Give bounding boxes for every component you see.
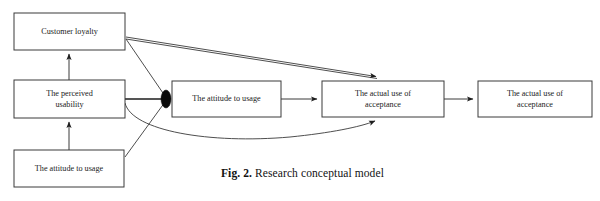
node-label-attitude-to-usage-left: The attitude to usage (35, 164, 104, 173)
node-label-perceived-usability-line1: The perceived (46, 89, 93, 98)
edge-customer-loyalty-to-actual-use (126, 37, 377, 79)
node-customer-loyalty[interactable]: Customer loyalty (14, 13, 125, 50)
figure-caption-text: Research conceptual model (252, 167, 384, 179)
node-perceived-usability[interactable]: The perceived usability (14, 80, 125, 118)
node-label-actual-use-right-line1: The actual use of (507, 89, 563, 98)
node-label-actual-use-middle-line2: acceptance (365, 100, 401, 109)
node-actual-use-acceptance-middle[interactable]: The actual use of acceptance (322, 81, 444, 117)
node-attitude-to-usage-center[interactable]: The attitude to usage (172, 81, 281, 117)
edge-customer-loyalty-to-junction (126, 39, 165, 96)
node-label-actual-use-right-line2: acceptance (517, 100, 553, 109)
figure-caption-prefix: Fig. 2. (221, 167, 252, 179)
node-label-actual-use-middle-line1: The actual use of (355, 89, 411, 98)
node-attitude-to-usage-left[interactable]: The attitude to usage (14, 150, 124, 187)
junction-dot-icon (161, 90, 171, 108)
node-label-attitude-to-usage-center: The attitude to usage (192, 94, 261, 103)
edge-attitude-left-to-junction (125, 102, 165, 157)
node-label-perceived-usability-line2: usability (55, 100, 84, 109)
figure-container: Customer loyalty The perceived usability… (0, 0, 600, 201)
figure-caption: Fig. 2. Research conceptual model (221, 167, 384, 179)
node-actual-use-acceptance-right[interactable]: The actual use of acceptance (478, 81, 592, 117)
node-label-customer-loyalty: Customer loyalty (41, 27, 99, 36)
